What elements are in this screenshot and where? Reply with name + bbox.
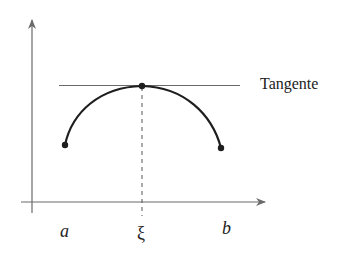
label-b: b: [222, 219, 231, 237]
diagram-canvas: [0, 0, 354, 261]
function-curve: [65, 86, 221, 148]
tangent-point-xi: [139, 83, 145, 89]
endpoint-b: [218, 145, 224, 151]
label-xi: ξ: [137, 224, 145, 242]
label-a: a: [60, 222, 69, 240]
endpoint-a: [62, 142, 68, 148]
tangent-label: Tangente: [260, 76, 318, 92]
